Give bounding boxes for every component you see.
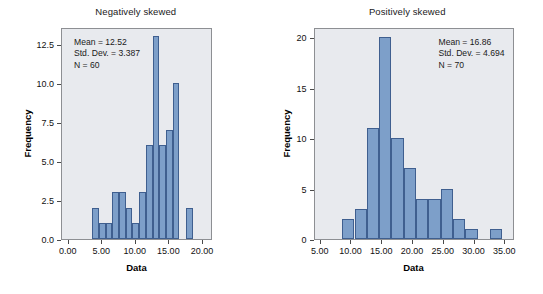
x-axis-tick-label: 5.00	[311, 246, 329, 256]
x-axis-tick	[168, 240, 169, 244]
x-axis-tick	[350, 240, 351, 244]
histogram-bar	[355, 209, 367, 239]
histogram-figure: Negatively skewed Frequency Mean = 12.52…	[0, 0, 543, 294]
histogram-bar	[173, 83, 180, 239]
plot-area-left: Mean = 12.52 Std. Dev. = 3.387 N = 60	[61, 28, 212, 240]
histogram-bar	[146, 145, 153, 239]
x-axis-tick-label: 5.00	[93, 246, 111, 256]
x-axis-tick-label: 10.00	[124, 246, 147, 256]
y-axis-tick	[310, 190, 314, 191]
y-axis-tick	[57, 240, 61, 241]
n-label-left: N = 60	[74, 60, 140, 71]
stddev-label-left: Std. Dev. = 3.387	[74, 48, 140, 59]
histogram-bar	[186, 208, 193, 239]
chart-title-left: Negatively skewed	[0, 6, 272, 17]
chart-title-right: Positively skewed	[272, 6, 543, 17]
x-axis-tick	[474, 240, 475, 244]
x-axis-label-right: Data	[314, 262, 514, 273]
y-axis-tick	[310, 240, 314, 241]
histogram-bar	[490, 229, 502, 239]
histogram-bar	[99, 223, 106, 239]
histogram-bar	[92, 208, 99, 239]
statistics-annotation-left: Mean = 12.52 Std. Dev. = 3.387 N = 60	[74, 37, 140, 71]
y-axis-tick	[57, 84, 61, 85]
x-axis-tick-label: 0.00	[59, 246, 77, 256]
n-label-right: N = 70	[438, 60, 504, 71]
mean-label-right: Mean = 16.86	[438, 37, 504, 48]
y-axis-tick	[310, 38, 314, 39]
y-axis-tick-label: 12.5	[0, 40, 54, 50]
plot-area-right: Mean = 16.86 Std. Dev. = 4.694 N = 70	[314, 28, 514, 240]
x-axis-tick	[412, 240, 413, 244]
y-axis-tick-label: 10.0	[0, 79, 54, 89]
x-axis-tick-label: 20.00	[401, 246, 424, 256]
x-axis-tick	[101, 240, 102, 244]
histogram-bar	[441, 189, 453, 239]
y-axis-tick-label: 0	[272, 235, 307, 245]
x-axis-tick	[320, 240, 321, 244]
x-axis-tick-label: 15.00	[157, 246, 180, 256]
histogram-bar	[453, 219, 465, 239]
y-axis-tick-label: 7.5	[0, 118, 54, 128]
histogram-bar	[367, 128, 379, 239]
y-axis-tick-label: 2.5	[0, 196, 54, 206]
y-axis-tick	[310, 89, 314, 90]
histogram-bar	[342, 219, 354, 239]
x-axis-label-left: Data	[61, 262, 212, 273]
x-axis-tick	[68, 240, 69, 244]
histogram-bar	[106, 223, 113, 239]
x-axis-tick	[202, 240, 203, 244]
y-axis-tick-label: 10	[272, 134, 307, 144]
x-axis-tick-label: 30.00	[462, 246, 485, 256]
histogram-bar	[126, 208, 133, 239]
histogram-bar	[159, 145, 166, 239]
x-axis-tick	[443, 240, 444, 244]
histogram-bar	[416, 199, 428, 239]
histogram-bar	[391, 138, 403, 239]
mean-label-left: Mean = 12.52	[74, 37, 140, 48]
x-axis-tick	[504, 240, 505, 244]
x-axis-tick-label: 20.00	[191, 246, 214, 256]
histogram-bar	[153, 36, 160, 239]
y-axis-tick	[57, 45, 61, 46]
statistics-annotation-right: Mean = 16.86 Std. Dev. = 4.694 N = 70	[438, 37, 504, 71]
x-axis-tick-label: 10.00	[339, 246, 362, 256]
y-axis-tick	[57, 123, 61, 124]
stddev-label-right: Std. Dev. = 4.694	[438, 48, 504, 59]
y-axis-tick-label: 15	[272, 84, 307, 94]
histogram-bar	[166, 130, 173, 239]
y-axis-tick	[57, 162, 61, 163]
histogram-bar	[404, 168, 416, 239]
x-axis-tick-label: 15.00	[370, 246, 393, 256]
histogram-bar	[139, 192, 146, 239]
histogram-bar	[112, 192, 119, 239]
y-axis-tick	[310, 139, 314, 140]
y-axis-label-left: Frequency	[22, 28, 33, 240]
histogram-bar	[465, 229, 477, 239]
histogram-bar	[428, 199, 440, 239]
chart-panel-positively-skewed: Positively skewed Frequency Mean = 16.86…	[272, 0, 543, 294]
x-axis-tick-label: 35.00	[493, 246, 516, 256]
histogram-bar	[132, 223, 139, 239]
x-axis-tick	[135, 240, 136, 244]
y-axis-tick-label: 5.0	[0, 157, 54, 167]
y-axis-tick-label: 5	[272, 185, 307, 195]
x-axis-tick	[381, 240, 382, 244]
chart-panel-negatively-skewed: Negatively skewed Frequency Mean = 12.52…	[0, 0, 272, 294]
histogram-bar	[119, 192, 126, 239]
x-axis-tick-label: 25.00	[431, 246, 454, 256]
histogram-bar	[379, 37, 391, 239]
y-axis-tick	[57, 201, 61, 202]
y-axis-tick-label: 0.0	[0, 235, 54, 245]
y-axis-tick-label: 20	[272, 33, 307, 43]
